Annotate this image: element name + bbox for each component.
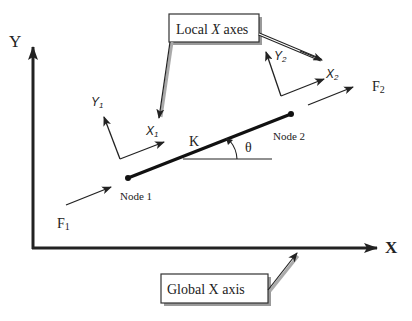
local-x2-label: X2 (325, 67, 339, 82)
node-2-label: Node 2 (273, 130, 305, 142)
global-axis-callout: Global X axis (161, 253, 298, 306)
spring-element-diagram: Y X Local X axes Y1 X1 Y2 X2 K (0, 0, 412, 321)
node-1-dot (125, 175, 131, 181)
global-y-label: Y (9, 32, 21, 51)
force-f2-label: F2 (372, 79, 385, 95)
global-x-label: X (385, 238, 398, 257)
local-callout-suffix: axes (220, 22, 248, 37)
local-callout-italic: X (210, 22, 220, 37)
local-callout-prefix: Local (176, 22, 211, 37)
local-y1-label: Y1 (91, 95, 103, 110)
svg-text:Local X axes: Local X axes (176, 22, 248, 37)
spring-element (125, 111, 294, 181)
local-y2-label: Y2 (274, 49, 287, 64)
force-f2-arrow (308, 87, 353, 105)
force-f1-label: F1 (57, 216, 70, 232)
angle-theta-label: θ (245, 140, 252, 155)
stiffness-label: K (189, 134, 199, 149)
local-axes-callout: Local X axes (159, 14, 322, 118)
node-1-label: Node 1 (120, 190, 152, 202)
global-callout-text: Global X axis (167, 282, 245, 297)
local-x1-label: X1 (145, 124, 158, 139)
node-2-dot (288, 111, 294, 117)
force-f1-arrow (66, 187, 111, 205)
